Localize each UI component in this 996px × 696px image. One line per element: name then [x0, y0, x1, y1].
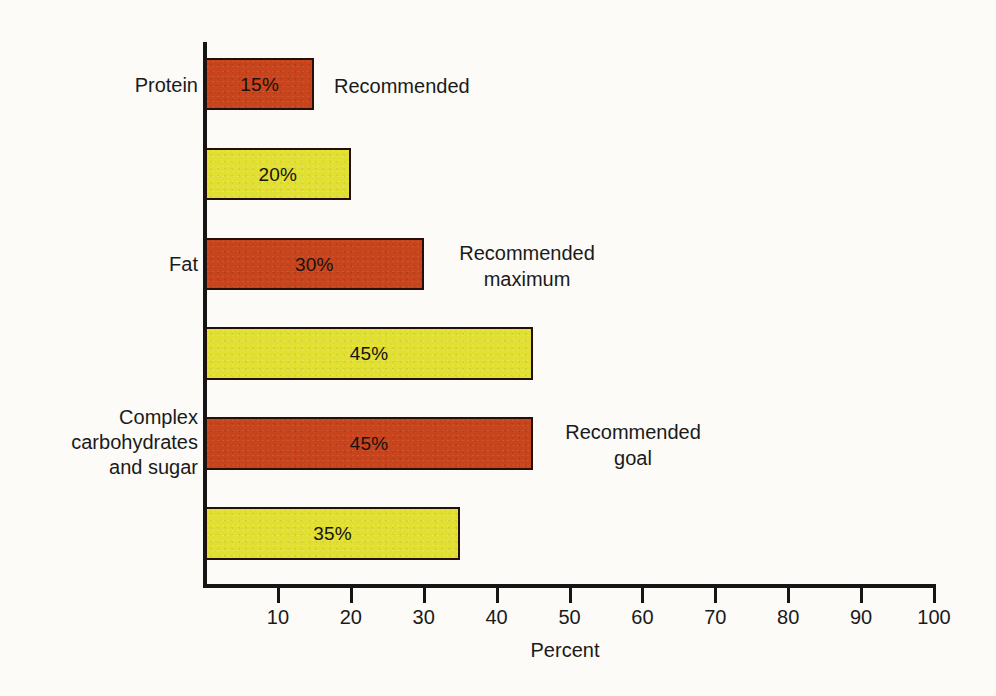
annotation-recommended-goal: Recommended goal: [543, 419, 723, 471]
x-axis-tick-label: 90: [831, 605, 891, 629]
bar-value-label: 45%: [350, 344, 389, 363]
bar-fat-recommended-maximum[interactable]: 30%: [205, 238, 424, 290]
x-axis-tick-label: 30: [394, 605, 454, 629]
category-label-carbohydrates: Complex carbohydrates and sugar: [71, 405, 198, 480]
bar-value-label: 45%: [350, 434, 389, 453]
x-axis-tick-label: 50: [540, 605, 600, 629]
x-axis-tick: [423, 588, 426, 603]
category-label-protein: Protein: [135, 73, 198, 98]
x-axis-tick-label: 20: [321, 605, 381, 629]
plot-area: 15% 20% 30% 45% 45% 35% Protein Fat Comp…: [0, 0, 996, 696]
x-axis-tick-label: 70: [685, 605, 745, 629]
x-axis-tick: [787, 588, 790, 603]
x-axis-title: Percent: [0, 639, 996, 662]
annotation-recommended: Recommended: [334, 73, 564, 99]
x-axis-title-text: Percent: [531, 639, 600, 661]
bar-value-label: 15%: [240, 75, 279, 94]
x-axis-tick-label: 100: [904, 605, 964, 629]
x-axis-tick: [933, 588, 936, 603]
annotation-recommended-maximum: Recommended maximum: [437, 240, 617, 292]
category-label-fat: Fat: [169, 252, 198, 277]
x-axis-tick: [350, 588, 353, 603]
bar-carbohydrates-recommended-goal[interactable]: 45%: [205, 417, 533, 470]
x-axis-tick-label: 10: [248, 605, 308, 629]
bar-protein-recommended[interactable]: 15%: [205, 58, 314, 110]
x-axis-tick: [641, 588, 644, 603]
x-axis-tick-label: 40: [467, 605, 527, 629]
x-axis-tick: [714, 588, 717, 603]
x-axis-tick: [277, 588, 280, 603]
bar-chart: 15% 20% 30% 45% 45% 35% Protein Fat Comp…: [0, 0, 996, 696]
x-axis-tick-label: 60: [612, 605, 672, 629]
bar-carbohydrates-actual[interactable]: 35%: [205, 507, 460, 560]
x-axis-tick-label: 80: [758, 605, 818, 629]
bar-value-label: 30%: [295, 255, 334, 274]
bar-value-label: 35%: [313, 524, 352, 543]
x-axis-tick: [496, 588, 499, 603]
bar-value-label: 20%: [259, 165, 298, 184]
bar-fat-actual[interactable]: 45%: [205, 327, 533, 380]
x-axis-tick: [860, 588, 863, 603]
bar-protein-actual[interactable]: 20%: [205, 148, 351, 200]
x-axis-tick: [569, 588, 572, 603]
